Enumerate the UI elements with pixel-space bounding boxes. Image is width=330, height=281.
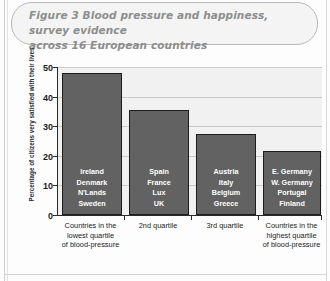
bar-country-label: Greece <box>214 199 238 210</box>
y-tick-label-20: 20 <box>31 153 53 162</box>
x-category-line: of blood-pressure <box>263 240 321 249</box>
y-tick-label-50: 50 <box>31 64 53 73</box>
bar-country-label: Finland <box>279 199 305 210</box>
bar-3rd-quartile[interactable]: Austria Italy Belgium Greece <box>196 134 256 215</box>
bar-lowest-quartile[interactable]: Ireland Denmark N'Lands Sweden <box>62 73 122 215</box>
bar-country-label: Ireland <box>80 167 104 178</box>
figure-title: Figure 3 Blood pressure and happiness, s… <box>29 8 305 53</box>
bar-series: Ireland Denmark N'Lands Sweden Spain Fra… <box>58 67 322 215</box>
bar-country-label: N'Lands <box>78 188 106 199</box>
chart: Percentage of citizens very satisfied wi… <box>9 52 325 257</box>
bar-2nd-quartile[interactable]: Spain France Lux UK <box>129 110 189 215</box>
x-tick-mark-3 <box>258 216 259 220</box>
x-tick-mark-2 <box>191 216 192 220</box>
x-category-line: of blood-pressure <box>62 240 120 249</box>
bar-country-label: Spain <box>149 167 169 178</box>
x-tick-mark-1 <box>124 216 125 220</box>
bar-country-label: Italy <box>219 178 233 189</box>
bar-country-label: W. Germany <box>271 178 313 189</box>
bar-country-label: France <box>147 178 171 189</box>
page-frame-line-bottom <box>4 274 326 275</box>
y-tick-label-10: 10 <box>31 182 53 191</box>
bar-country-label: E. Germany <box>272 167 312 178</box>
bar-country-label: Lux <box>153 188 166 199</box>
x-category-label-lowest-quartile: Countries in the lowest quartile of bloo… <box>57 221 124 250</box>
x-category-line: highest quartile <box>266 231 316 240</box>
bar-country-label: Portugal <box>277 188 306 199</box>
page-frame-line-right <box>326 0 327 281</box>
x-category-line: Countries in the <box>266 221 318 230</box>
y-tick-label-30: 30 <box>31 123 53 132</box>
y-tick-label-40: 40 <box>31 94 53 103</box>
x-category-label-2nd-quartile: 2nd quartile <box>125 221 191 231</box>
figure-container: Figure 3 Blood pressure and happiness, s… <box>0 0 330 281</box>
x-category-label-highest-quartile: Countries in the highest quartile of blo… <box>258 221 325 250</box>
bar-highest-quartile[interactable]: E. Germany W. Germany Portugal Finland <box>263 151 321 215</box>
x-category-line: lowest quartile <box>67 231 114 240</box>
x-category-line: 2nd quartile <box>139 221 178 230</box>
x-category-line: 3rd quartile <box>207 221 244 230</box>
bar-country-label: Belgium <box>212 188 240 199</box>
figure-title-line-2: across 16 European countries <box>29 39 207 51</box>
page-frame-line-left <box>4 0 5 281</box>
figure-title-line-1: Figure 3 Blood pressure and happiness, s… <box>29 9 268 36</box>
x-category-label-3rd-quartile: 3rd quartile <box>192 221 258 231</box>
bar-country-label: Austria <box>214 167 239 178</box>
bar-country-label: Sweden <box>78 199 105 210</box>
bar-country-label: UK <box>154 199 164 210</box>
x-tick-mark-4 <box>321 216 322 220</box>
bar-country-label: Denmark <box>77 178 108 189</box>
page-frame-line-left-inner <box>7 0 8 281</box>
y-tick-label-0: 0 <box>31 212 53 221</box>
x-category-line: Countries in the <box>65 221 117 230</box>
plot-area: Ireland Denmark N'Lands Sweden Spain Fra… <box>57 67 322 216</box>
